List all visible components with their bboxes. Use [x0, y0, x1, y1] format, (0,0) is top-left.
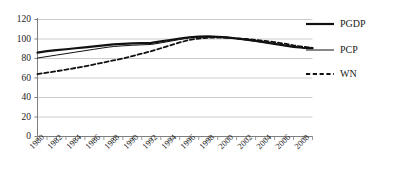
y-tick-label: 40 [5, 92, 31, 102]
y-tick-label: 120 [5, 14, 31, 24]
legend-swatch-wn [305, 69, 335, 79]
legend-swatch-pcp [305, 45, 335, 55]
y-tick-label: 0 [5, 131, 31, 141]
y-tick-label: 80 [5, 53, 31, 63]
y-tick-label: 60 [5, 73, 31, 83]
legend-label-pgdp: PGDP [340, 18, 366, 29]
line-chart: 020406080100120 198019821984198619881990… [0, 0, 410, 181]
y-tick-label: 20 [5, 112, 31, 122]
y-tick-label: 100 [5, 34, 31, 44]
legend-label-wn: WN [340, 68, 357, 79]
legend-swatch-pgdp [305, 19, 335, 29]
legend-label-pcp: PCP [340, 44, 358, 55]
